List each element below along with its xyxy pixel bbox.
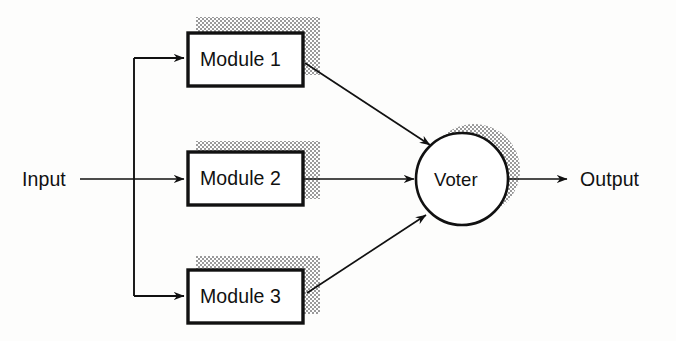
module-1-label: Module 1	[200, 50, 281, 70]
module-3-to-voter-line	[307, 215, 426, 293]
diagram-vector-layer	[0, 0, 676, 341]
input-label: Input	[22, 170, 66, 190]
module-1-to-voter-line	[305, 63, 430, 145]
module-3-label: Module 3	[200, 287, 281, 307]
diagram-canvas: Input Module 1 Module 2 Module 3 Voter O…	[0, 0, 676, 341]
module-2-label: Module 2	[200, 169, 281, 189]
voter-label: Voter	[434, 171, 478, 190]
output-label: Output	[580, 170, 639, 190]
